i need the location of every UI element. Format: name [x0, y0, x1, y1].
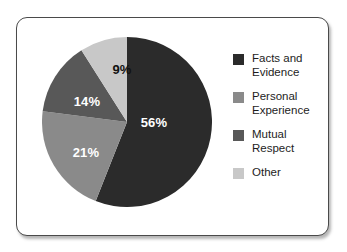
legend-item[interactable]: Personal Experience [233, 90, 325, 117]
pie-slice-data-label: 56% [141, 115, 168, 130]
chart-legend: Facts and EvidencePersonal ExperienceMut… [233, 52, 325, 180]
legend-item-label: Facts and Evidence [252, 52, 303, 79]
pie-slice-data-label: 14% [74, 94, 101, 109]
legend-color-swatch [233, 130, 244, 141]
legend-item[interactable]: Facts and Evidence [233, 52, 325, 79]
chart-card: 56%21%14%9% Facts and EvidencePersonal E… [16, 17, 329, 236]
legend-color-swatch [233, 168, 244, 179]
legend-item-label: Mutual Respect [252, 128, 294, 155]
legend-item[interactable]: Other [233, 166, 325, 180]
pie-chart-svg: 56%21%14%9% [42, 37, 212, 207]
pie-slice-data-label: 9% [112, 62, 131, 77]
legend-color-swatch [233, 92, 244, 103]
legend-color-swatch [233, 54, 244, 65]
legend-item-label: Other [252, 166, 281, 180]
pie-slice-data-label: 21% [73, 145, 100, 160]
legend-item[interactable]: Mutual Respect [233, 128, 325, 155]
pie-chart: 56%21%14%9% [42, 37, 212, 207]
legend-item-label: Personal Experience [252, 90, 310, 117]
